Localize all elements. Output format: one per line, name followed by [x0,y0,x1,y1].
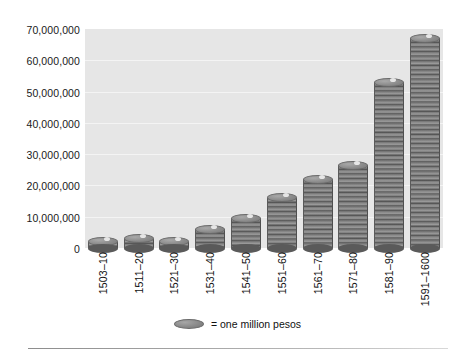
coin-stack-bar [195,229,225,248]
y-axis: 70,000,000 60,000,000 50,000,000 40,000,… [0,20,80,260]
bar-slot [85,29,121,248]
x-axis-tick-label: 1521–30 [168,252,180,294]
bar-slot [228,29,264,248]
coin-stack-bar [338,165,368,248]
coin-stack-body [124,239,154,248]
x-axis-tick-label: 1511–20 [133,252,145,294]
x-axis-tick-label: 1571–80 [347,252,359,294]
coin-stack-body [410,38,440,248]
y-axis-tick-label: 20,000,000 [2,180,80,192]
chart-page: 70,000,000 60,000,000 50,000,000 40,000,… [0,0,475,362]
chart-legend: = one million pesos [0,318,475,330]
coin-stack-body [338,165,368,248]
x-axis-tick: 1541–50 [228,250,264,312]
coin-top-icon [267,193,297,202]
coin-stack-body [267,198,297,248]
coin-stack-body [303,179,333,248]
bar-slot [121,29,157,248]
coin-stack-body [159,242,189,248]
coin-top-icon [195,225,225,234]
bar-slot [192,29,228,248]
x-axis-tick: 1503–10 [85,250,121,312]
x-axis-tick-label: 1561–70 [312,252,324,294]
x-axis-tick-label: 1541–50 [240,252,252,294]
x-axis-tick: 1511–20 [121,250,157,312]
x-axis-tick: 1581–90 [371,250,407,312]
bar-series [85,29,443,248]
coin-stack-bar [88,242,118,248]
bar-slot [300,29,336,248]
coin-top-icon [374,78,404,87]
y-axis-tick-label: 50,000,000 [2,87,80,99]
x-axis-tick: 1571–80 [336,250,372,312]
x-axis-tick: 1591–1600 [407,250,443,312]
coin-top-icon [410,34,440,43]
x-axis-tick: 1531–40 [192,250,228,312]
bar-slot [336,29,372,248]
y-axis-tick-label: 60,000,000 [2,55,80,67]
y-axis-tick-label: 40,000,000 [2,118,80,130]
coin-top-icon [303,175,333,184]
legend-label: = one million pesos [211,318,301,330]
coin-stack-bar [124,239,154,248]
coin-stack-bar [267,198,297,248]
coin-icon [174,319,204,329]
coin-stack-body [231,218,261,248]
bar-slot [264,29,300,248]
x-axis-tick-label: 1503–10 [97,252,109,294]
y-axis-tick-label: 30,000,000 [2,149,80,161]
coin-top-icon [231,214,261,223]
bar-slot [371,29,407,248]
bar-slot [407,29,443,248]
x-axis: 1503–10 1511–20 1521–30 1531–40 1541–50 … [85,250,443,312]
coin-stack-bar [303,179,333,248]
x-axis-tick: 1551–60 [264,250,300,312]
coin-stack-bar [159,242,189,248]
x-axis-tick-label: 1591–1600 [419,252,431,306]
coin-top-icon [124,234,154,243]
coin-stack-body [374,82,404,248]
y-axis-tick-label: 0 [2,243,80,255]
x-axis-tick-label: 1551–60 [276,252,288,294]
x-axis-tick-label: 1581–90 [383,252,395,294]
coin-stack-bar [374,82,404,248]
bar-slot [157,29,193,248]
x-axis-tick-label: 1531–40 [204,252,216,294]
coin-top-icon [338,161,368,170]
coin-stack-bar [410,38,440,248]
y-axis-tick-label: 10,000,000 [2,212,80,224]
x-axis-tick: 1521–30 [157,250,193,312]
y-axis-tick-label: 70,000,000 [2,24,80,36]
coin-stack-body [195,229,225,248]
x-axis-tick: 1561–70 [300,250,336,312]
coin-stack-body [88,242,118,248]
footer-divider [28,348,448,349]
coin-stack-bar [231,218,261,248]
